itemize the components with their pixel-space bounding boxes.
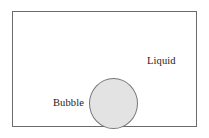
figure-root: Liquid Bubble	[0, 0, 209, 138]
bubble-circle-shape	[89, 78, 138, 129]
liquid-label: Liquid	[147, 55, 176, 67]
domain-frame: Liquid Bubble	[12, 11, 197, 127]
bubble-label: Bubble	[53, 97, 84, 109]
